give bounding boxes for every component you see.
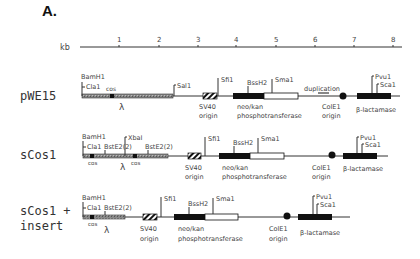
sv40-label: SV40 <box>199 103 216 111</box>
lambda-segment <box>82 94 173 98</box>
neo-kan-segment-light <box>205 214 238 220</box>
cole1-label: ColE1 <box>269 225 288 233</box>
row-scos1-insert: sCos1 + insert BamH1 Cla1 BstE2(2) cos λ… <box>20 193 350 243</box>
cole1-origin-label: origin <box>322 112 341 120</box>
tick-label: 3 <box>196 36 200 44</box>
tick-label: 4 <box>234 36 239 44</box>
sv40-label: SV40 <box>140 225 157 233</box>
cole1-origin-dot <box>284 213 291 220</box>
scale-ticks: 1 2 3 4 5 6 7 8 <box>117 36 395 47</box>
lambda-segment <box>83 215 125 219</box>
tick-label: 6 <box>313 36 318 44</box>
cole1-origin-label: origin <box>312 173 331 181</box>
site-label-sma1: Sma1 <box>216 195 235 203</box>
sv40-origin-box <box>203 93 217 99</box>
neo-label-2: phosphotransferase <box>222 173 287 181</box>
site-label-bamh1: BamH1 <box>81 73 105 81</box>
duplication-label: duplication <box>304 85 340 93</box>
cole1-origin-dot <box>329 152 336 159</box>
row-scos1: sCos1 BamH1 Cla1 BstE2(2) XbaI BstE2(2) … <box>20 133 388 181</box>
lambda-label: λ <box>119 102 125 112</box>
site-label-bssh2: BssH2 <box>233 139 253 147</box>
tick-label: 1 <box>117 36 121 44</box>
tick-label: 7 <box>352 36 356 44</box>
cos-label: cos <box>106 85 116 92</box>
site-label-pvu1: Pvu1 <box>316 193 332 201</box>
neo-label-2: phosphotransferase <box>237 112 302 120</box>
row-label: sCos1 <box>20 148 56 162</box>
sv40-label: SV40 <box>185 164 202 172</box>
cole1-label: ColE1 <box>312 164 331 172</box>
site-label-sca1: Sca1 <box>320 201 336 209</box>
site-label-sca1: Sca1 <box>380 81 396 89</box>
site-label-pvu1: Pvu1 <box>375 73 391 81</box>
neo-kan-segment-dark <box>219 153 250 159</box>
neo-label: neo/kan <box>222 164 248 172</box>
sv40-origin-label: origin <box>199 112 218 120</box>
site-label-cla1: Cla1 <box>86 83 100 91</box>
neo-kan-segment-light <box>264 93 298 99</box>
site-label-sal1: Sal1 <box>177 82 191 90</box>
row-label: pWE15 <box>20 89 56 103</box>
site-label-sfi1: Sfi1 <box>164 195 176 203</box>
neo-label: neo/kan <box>237 103 263 111</box>
row-label-2: insert <box>20 219 63 233</box>
site-label-sma1: Sma1 <box>275 76 294 84</box>
site-label-bamh1: BamH1 <box>82 133 106 141</box>
cos-label: cos <box>88 160 97 166</box>
site-label-cla1: Cla1 <box>87 143 101 151</box>
cole1-origin-label: origin <box>269 235 288 243</box>
neo-label: neo/kan <box>178 225 204 233</box>
row-pwe15: pWE15 BamH1 Cla1 cos Sal1 λ Sfi1 SV40 or… <box>20 73 400 120</box>
plasmid-map-diagram: kb 1 2 3 4 5 6 7 8 pWE15 BamH1 Cla1 cos … <box>0 0 420 259</box>
beta-lactamase-label: β-lactamase <box>356 106 396 114</box>
site-label-bssh2: BssH2 <box>247 79 267 87</box>
beta-lactamase-label: β-lactamase <box>300 229 340 237</box>
row-label: sCos1 + <box>20 204 71 218</box>
neo-kan-segment-light <box>250 153 284 159</box>
site-label-bste2-b: BstE2(2) <box>145 143 173 151</box>
cole1-origin-dot <box>340 93 347 100</box>
scale-unit-label: kb <box>60 43 70 52</box>
lambda-label: λ <box>104 225 110 235</box>
sv40-origin-box <box>188 153 201 159</box>
site-label-bamh1: BamH1 <box>82 194 106 202</box>
sv40-origin-box <box>143 214 157 220</box>
site-label-bssh2: BssH2 <box>188 200 208 208</box>
site-label-bste2-a: BstE2(2) <box>104 143 132 151</box>
beta-lactamase-segment <box>343 153 377 159</box>
site-label-xbai: XbaI <box>128 134 143 142</box>
cos-label: cos <box>131 160 140 166</box>
tick-label: 5 <box>274 36 278 44</box>
neo-kan-segment-dark <box>233 93 264 99</box>
lambda-label: λ <box>120 162 126 172</box>
cos-site <box>110 94 114 98</box>
site-label-sfi1: Sfi1 <box>208 135 220 143</box>
beta-lactamase-segment <box>357 93 391 99</box>
scale-bar: kb 1 2 3 4 5 6 7 8 <box>60 36 402 52</box>
tick-label: 2 <box>157 36 161 44</box>
beta-lactamase-segment <box>298 214 332 220</box>
site-label-cla1: Cla1 <box>87 204 101 212</box>
neo-label-2: phosphotransferase <box>178 235 243 243</box>
site-label-sma1: Sma1 <box>261 135 280 143</box>
beta-lactamase-label: β-lactamase <box>343 165 383 173</box>
cole1-label: ColE1 <box>322 103 341 111</box>
site-label-sca1: Sca1 <box>365 141 381 149</box>
sv40-origin-label: origin <box>140 235 159 243</box>
cos-site <box>90 154 94 158</box>
cos-site <box>133 154 137 158</box>
site-label-bste2: BstE2(2) <box>104 204 132 212</box>
tick-label: 8 <box>391 36 395 44</box>
cos-label: cos <box>88 221 97 227</box>
neo-kan-segment-dark <box>174 214 205 220</box>
cos-site <box>90 215 94 219</box>
sv40-origin-label: origin <box>185 173 204 181</box>
site-label-sfi1: Sfi1 <box>221 76 233 84</box>
